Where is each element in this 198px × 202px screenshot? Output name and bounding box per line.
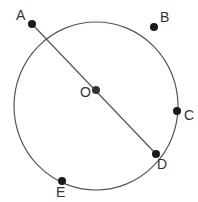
point-e-label: E: [56, 184, 65, 200]
point-d-label: D: [157, 156, 167, 172]
point-b: B: [150, 9, 169, 31]
point-a-label: A: [16, 7, 26, 23]
point-c-label: C: [184, 107, 194, 123]
point-o-dot: [92, 86, 100, 94]
point-o: O: [80, 84, 100, 100]
point-a-dot: [28, 20, 36, 28]
circle-diagram: A B O C D E: [0, 0, 198, 202]
point-a: A: [16, 7, 36, 28]
point-b-label: B: [160, 9, 169, 25]
point-d: D: [152, 150, 167, 172]
point-b-dot: [150, 23, 158, 31]
circle-outline: [14, 22, 178, 190]
point-c-dot: [173, 107, 181, 115]
point-o-label: O: [80, 84, 91, 100]
